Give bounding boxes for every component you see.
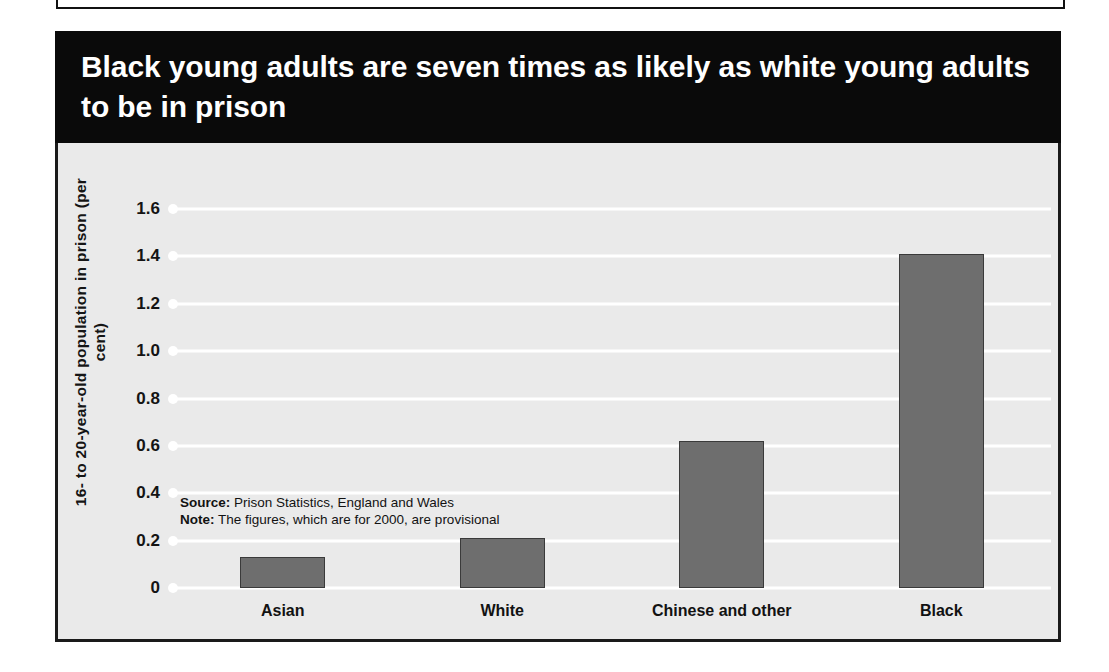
y-axis-tick-label: 1.2 xyxy=(136,294,160,314)
gridline-tick-dot xyxy=(168,394,178,404)
footnote-note-text: The figures, which are for 2000, are pro… xyxy=(215,512,500,527)
footnote-source-label: Source: xyxy=(180,495,230,510)
gridline-tick-dot xyxy=(168,441,178,451)
footnote-note-line: Note: The figures, which are for 2000, a… xyxy=(180,511,499,528)
gridline-tick-dot xyxy=(168,536,178,546)
y-axis-tick-label: 0.6 xyxy=(136,436,160,456)
footnote-note-label: Note: xyxy=(180,512,215,527)
gridline-tick-dot xyxy=(168,583,178,593)
y-axis-tick-label: 0.4 xyxy=(136,483,160,503)
y-axis-title: 16- to 20-year-old population in prison … xyxy=(71,177,109,507)
gridline xyxy=(173,208,1051,211)
gridline-tick-dot xyxy=(168,299,178,309)
x-axis-tick-label: Asian xyxy=(173,602,393,620)
y-axis-tick-label: 0.2 xyxy=(136,531,160,551)
gridline-tick-dot xyxy=(168,346,178,356)
footnote-source-text: Prison Statistics, England and Wales xyxy=(230,495,454,510)
page-top-rule xyxy=(56,0,1065,9)
gridline-tick-dot xyxy=(168,204,178,214)
footnote-source-line: Source: Prison Statistics, England and W… xyxy=(180,494,499,511)
chart-figure: Black young adults are seven times as li… xyxy=(55,31,1061,642)
x-axis-tick-label: Black xyxy=(831,602,1051,620)
x-axis-tick-label: White xyxy=(392,602,612,620)
bar xyxy=(240,557,325,588)
y-axis-tick-label: 1.6 xyxy=(136,199,160,219)
y-axis-tick-label: 1.4 xyxy=(136,246,160,266)
x-axis-tick-label: Chinese and other xyxy=(612,602,832,620)
chart-footnote: Source: Prison Statistics, England and W… xyxy=(180,494,499,528)
bar xyxy=(899,254,984,588)
chart-title-band: Black young adults are seven times as li… xyxy=(55,31,1061,143)
y-axis-tick-label: 0.8 xyxy=(136,389,160,409)
chart-title: Black young adults are seven times as li… xyxy=(81,47,1031,127)
bar xyxy=(460,538,545,588)
gridline-tick-dot xyxy=(168,488,178,498)
bar xyxy=(679,441,764,588)
plot-area: 00.20.40.60.81.01.21.41.6 AsianWhiteChin… xyxy=(173,209,1051,588)
chart-plot-panel: 16- to 20-year-old population in prison … xyxy=(55,143,1061,642)
gridline-tick-dot xyxy=(168,251,178,261)
y-axis-tick-label: 0 xyxy=(151,578,160,598)
y-axis-tick-label: 1.0 xyxy=(136,341,160,361)
